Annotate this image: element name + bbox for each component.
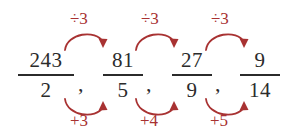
fraction-numerator: 243 [18,50,74,73]
fraction-numerator: 27 [172,50,212,73]
top-arrow-arc-2 [133,26,179,52]
top-arrow-arc-1 [62,26,108,52]
top-operation-label-2: ÷3 [141,10,159,27]
fraction-term-1: 243 2 [18,50,74,101]
top-operation-label-3: ÷3 [211,10,229,27]
separator-comma-2: , [146,73,152,95]
fraction-term-4: 9 14 [240,50,280,101]
fraction-numerator: 9 [240,50,280,73]
bottom-operation-label-3: +5 [210,112,228,129]
fraction-numerator: 81 [103,50,143,73]
fraction-sequence-figure: 243 2 , 81 5 , 27 9 , 9 14 ÷3 ÷3 ÷3 [0,0,287,135]
fraction-bar [172,74,212,76]
bottom-operation-label-1: +3 [70,112,88,129]
fraction-bar [240,74,280,76]
fraction-bar [103,74,143,76]
top-arrow-arc-3 [203,26,249,52]
separator-comma-1: , [78,73,84,95]
top-operation-label-1: ÷3 [70,10,88,27]
fraction-term-2: 81 5 [103,50,143,101]
separator-comma-3: , [215,73,221,95]
fraction-term-3: 27 9 [172,50,212,101]
fraction-bar [18,74,74,76]
bottom-operation-label-2: +4 [140,112,158,129]
